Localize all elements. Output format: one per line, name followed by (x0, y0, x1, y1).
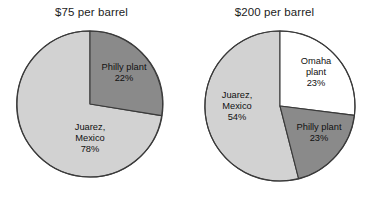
pie-slice-omaha-200[interactable] (280, 31, 355, 115)
pie-chart-200-svg (183, 0, 366, 201)
pie-slice-philly-75[interactable] (90, 31, 163, 116)
pie-chart-75-svg (0, 0, 183, 201)
pie-chart-panel-75: $75 per barrel Philly plant 22% Juarez, … (0, 0, 183, 201)
two-pie-chart-figure: $75 per barrel Philly plant 22% Juarez, … (0, 0, 366, 201)
pie-chart-panel-200: $200 per barrel Omaha plant 23% Philly p… (183, 0, 366, 201)
